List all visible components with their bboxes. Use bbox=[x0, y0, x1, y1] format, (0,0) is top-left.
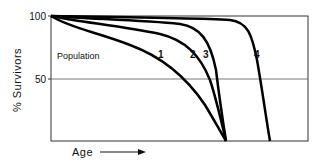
curve-3 bbox=[51, 16, 226, 141]
curve-1-label: 1 bbox=[158, 49, 164, 60]
curve-3-label: 3 bbox=[203, 49, 209, 60]
y-axis-title: % Survivors bbox=[11, 48, 23, 112]
population-annotation: Population bbox=[57, 51, 100, 61]
x-axis-title: Age bbox=[72, 146, 93, 158]
curve-2-label: 2 bbox=[190, 49, 196, 60]
x-axis-arrow-icon bbox=[138, 149, 146, 155]
ytick-50-label: 50 bbox=[35, 74, 47, 85]
curve-4-label: 4 bbox=[254, 49, 260, 60]
survivorship-chart: 100 50 % Survivors Age Population 1 2 3 … bbox=[0, 0, 319, 164]
plot-frame bbox=[51, 16, 308, 141]
ytick-100-label: 100 bbox=[29, 11, 46, 22]
